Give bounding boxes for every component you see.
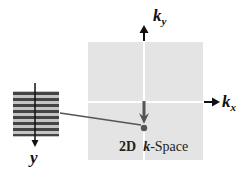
kspace-label: 2D k-Space [119,139,188,155]
y-label: y [30,149,38,166]
ky-label-main: k [153,6,162,25]
ky-label-sub: y [162,15,167,27]
ky-arrow-icon [140,25,149,41]
striped-object [13,91,59,137]
kx-label-main: k [222,92,231,111]
ky-label: ky [153,7,166,24]
kx-label: kx [222,93,236,110]
kspace-label-prefix: 2D [119,139,136,154]
kspace-label-suffix: -Space [150,139,188,154]
kspace-point [141,125,147,131]
kx-arrow-icon [204,98,220,107]
kx-label-sub: x [231,101,237,113]
